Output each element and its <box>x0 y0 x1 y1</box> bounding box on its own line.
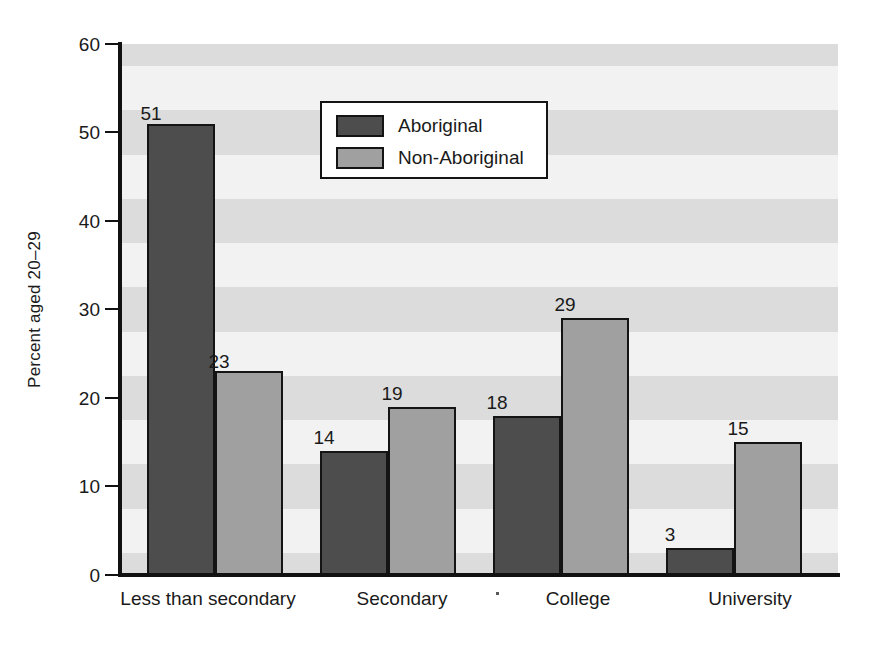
bar-value-label-non-aboriginal-university: 15 <box>704 419 772 438</box>
bar-non-aboriginal-college <box>561 318 629 575</box>
y-tick-mark-60 <box>105 43 118 45</box>
y-tick-mark-10 <box>105 485 118 487</box>
bar-value-label-aboriginal-less-than-secondary: 51 <box>117 104 185 123</box>
background-band <box>118 199 838 243</box>
y-tick-label-60: 60 <box>56 35 100 54</box>
y-tick-label-10: 10 <box>56 477 100 496</box>
y-tick-label-40: 40 <box>56 212 100 231</box>
y-tick-mark-0 <box>105 574 118 576</box>
bar-non-aboriginal-university <box>734 442 802 575</box>
legend-label-non-aboriginal: Non-Aboriginal <box>398 146 524 170</box>
y-tick-label-30: 30 <box>56 300 100 319</box>
background-band <box>118 44 838 66</box>
bar-value-label-aboriginal-university: 3 <box>636 525 704 544</box>
bar-aboriginal-college <box>493 416 561 575</box>
y-axis-line <box>118 42 122 577</box>
y-tick-label-20: 20 <box>56 389 100 408</box>
y-tick-mark-40 <box>105 220 118 222</box>
bar-value-label-aboriginal-college: 18 <box>463 393 531 412</box>
bar-value-label-non-aboriginal-college: 29 <box>531 295 599 314</box>
bar-value-label-non-aboriginal-secondary: 19 <box>358 384 426 403</box>
y-axis-tick-labels: 60 50 40 30 20 10 0 <box>52 0 100 648</box>
legend-swatch-icon-aboriginal <box>336 115 384 137</box>
bar-aboriginal-university <box>666 548 734 575</box>
bar-value-label-non-aboriginal-less-than-secondary: 23 <box>185 352 253 371</box>
legend-label-aboriginal: Aboriginal <box>398 114 483 138</box>
y-tick-label-50: 50 <box>56 123 100 142</box>
legend-swatch-icon-non-aboriginal <box>336 147 384 169</box>
background-band <box>118 287 838 332</box>
y-tick-mark-20 <box>105 397 118 399</box>
x-axis-line <box>118 573 840 577</box>
bar-non-aboriginal-less-than-secondary <box>215 371 283 575</box>
bar-aboriginal-secondary <box>320 451 388 575</box>
x-tick-label-college: College <box>488 588 668 610</box>
legend: Aboriginal Non-Aboriginal <box>320 101 548 179</box>
bar-chart-figure: Percent aged 20–29 60 50 40 30 20 10 0 <box>0 0 870 648</box>
x-tick-label-university: University <box>660 588 840 610</box>
bar-aboriginal-less-than-secondary <box>147 124 215 575</box>
x-tick-label-secondary: Secondary <box>312 588 492 610</box>
x-tick-label-less-than-secondary: Less than secondary <box>98 588 318 610</box>
y-tick-mark-30 <box>105 308 118 310</box>
y-axis-title: Percent aged 20–29 <box>22 44 48 575</box>
y-tick-mark-50 <box>105 131 118 133</box>
y-tick-label-0: 0 <box>56 566 100 585</box>
scan-artifact-dot <box>496 592 499 595</box>
bar-non-aboriginal-secondary <box>388 407 456 575</box>
bar-value-label-aboriginal-secondary: 14 <box>290 428 358 447</box>
